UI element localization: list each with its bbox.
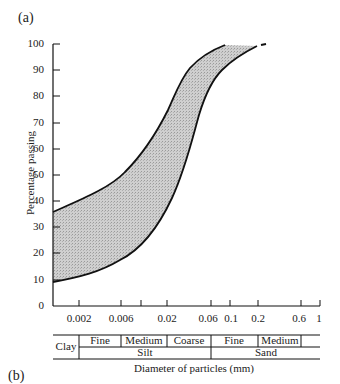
- table-sand-fine: Fine: [224, 334, 244, 346]
- grading-envelope-band: [53, 45, 257, 282]
- x-tick-0.002: 0.002: [67, 312, 92, 324]
- x-tick-0.06: 0.06: [198, 312, 217, 324]
- x-axis-label: Diameter of particles (mm): [134, 362, 254, 374]
- table-sand-medium: Medium: [261, 334, 298, 346]
- x-tick-0.006: 0.006: [109, 312, 134, 324]
- x-tick-0.6: 0.6: [292, 312, 306, 324]
- x-tick-0.02: 0.02: [157, 312, 176, 324]
- table-silt-group: Silt: [137, 346, 152, 358]
- table-silt-fine: Fine: [90, 334, 110, 346]
- lower-bound-dash: [261, 44, 266, 45]
- x-ticks: [79, 300, 320, 306]
- x-tick-0.2: 0.2: [251, 312, 265, 324]
- table-silt-medium: Medium: [125, 334, 162, 346]
- x-tick-0.1: 0.1: [224, 312, 238, 324]
- table-sand-group: Sand: [255, 346, 277, 358]
- x-tick-1: 1: [316, 312, 322, 324]
- table-clay-label: Clay: [56, 340, 77, 352]
- panel-label-b: (b): [8, 368, 24, 384]
- grading-chart: [0, 0, 340, 384]
- table-silt-coarse: Coarse: [174, 334, 205, 346]
